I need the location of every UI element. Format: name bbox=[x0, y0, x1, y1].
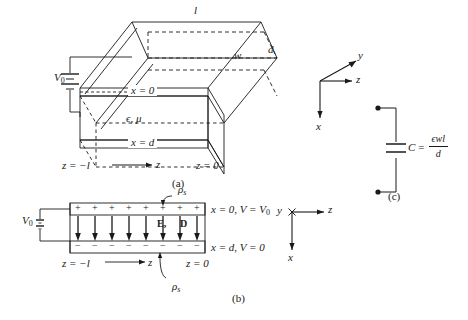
voltage-source-circuit-b bbox=[36, 209, 70, 241]
upper-plate-hidden-edges bbox=[148, 32, 277, 96]
axes-a-x-label: x bbox=[316, 121, 321, 132]
negative-charge-sign: − bbox=[109, 241, 115, 251]
panel-b-bottom-boundary-label: x = d, V = 0 bbox=[211, 242, 265, 253]
panel-b-e-field-label: E, bbox=[157, 219, 166, 229]
negative-charge-sign: − bbox=[177, 241, 183, 251]
panel-a-width-label: w bbox=[234, 50, 241, 61]
panel-a-z-left-label: z = −l bbox=[62, 160, 90, 171]
bottom-charge-leader bbox=[158, 252, 166, 278]
panel-a-depth-label: d bbox=[268, 44, 274, 55]
positive-charge-sign: + bbox=[143, 203, 149, 213]
panel-b-bottom-charge-label: ρs bbox=[172, 281, 180, 294]
negative-charge-sign: − bbox=[160, 241, 166, 251]
upper-plate-slant-edges bbox=[80, 22, 277, 129]
axes-b-x-label: x bbox=[288, 252, 293, 263]
axes-a-y-label: y bbox=[358, 50, 363, 61]
panel-b-z-left-label: z = −l bbox=[62, 258, 90, 269]
panel-a-source-label: V0 bbox=[54, 72, 65, 85]
negative-charge-sign: − bbox=[92, 241, 98, 251]
panel-c-drawing bbox=[340, 90, 468, 210]
panel-b-z-axis-label: z bbox=[148, 257, 152, 268]
negative-charge-sign: − bbox=[143, 241, 149, 251]
panel-c-capacitance-equation: C = ϵwl d bbox=[408, 134, 448, 161]
positive-charge-sign: + bbox=[126, 203, 132, 213]
panel-a-length-label: l bbox=[194, 5, 197, 16]
panel-c-equals: = bbox=[418, 141, 424, 153]
positive-charge-sign: + bbox=[109, 203, 115, 213]
panel-c-denominator: d bbox=[429, 147, 448, 160]
panel-a-material-label: ϵ, μ bbox=[126, 113, 141, 124]
z-direction-arrow-b bbox=[105, 259, 145, 264]
panel-b-source-label: V0 bbox=[22, 215, 33, 228]
negative-charge-sign: − bbox=[194, 241, 200, 251]
panel-c-fraction: ϵwl d bbox=[429, 133, 448, 160]
negative-charge-sign: − bbox=[75, 241, 81, 251]
positive-charge-sign: + bbox=[177, 203, 183, 213]
positive-charge-row: ++++++++ bbox=[70, 203, 205, 215]
panel-b-top-charge-label: ρs bbox=[178, 184, 186, 197]
voltage-source-circuit-a bbox=[61, 57, 132, 117]
panel-a-z-axis-label: z bbox=[156, 159, 160, 170]
negative-charge-sign: − bbox=[126, 241, 132, 251]
upper-plate-solid bbox=[80, 22, 277, 96]
panel-c-c-symbol: C bbox=[408, 141, 415, 153]
panel-c-tag: (c) bbox=[388, 190, 400, 202]
panel-b-tag: (b) bbox=[232, 292, 245, 304]
positive-charge-sign: + bbox=[75, 203, 81, 213]
negative-charge-row: −−−−−−−− bbox=[70, 241, 205, 253]
axes-a-z-label: z bbox=[356, 74, 360, 85]
physics-figure: V0 l w d x = 0 ϵ, μ x = d z = −l z z = 0… bbox=[0, 0, 468, 320]
positive-charge-sign: + bbox=[160, 203, 166, 213]
dielectric-hidden-edges bbox=[80, 96, 224, 167]
axes-b-z-label: z bbox=[328, 204, 332, 215]
axes-b-y-label: y bbox=[277, 205, 282, 216]
panel-a-top-plane-label: x = 0 bbox=[128, 85, 157, 96]
panel-c-numerator: ϵwl bbox=[429, 133, 448, 147]
panel-a-bottom-plane-label: x = d bbox=[128, 137, 157, 148]
panel-a-z-right-label: z = 0 bbox=[196, 160, 219, 171]
panel-b-d-field-label: D bbox=[180, 219, 187, 229]
panel-b-z-right-label: z = 0 bbox=[186, 258, 209, 269]
positive-charge-sign: + bbox=[92, 203, 98, 213]
panel-b-top-boundary-label: x = 0, V = V0 bbox=[211, 204, 270, 217]
positive-charge-sign: + bbox=[194, 203, 200, 213]
